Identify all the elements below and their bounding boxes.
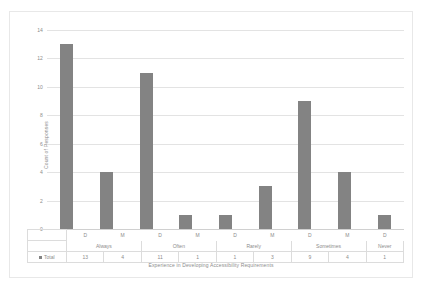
legend-total-label: Total [44,254,55,260]
bar [338,172,351,229]
bar-slot [285,30,325,229]
bar [219,215,232,229]
total-value-cell: 11 [141,252,178,263]
table-group-rowhead [28,241,67,252]
bar [259,186,272,229]
bar [60,44,73,229]
total-value-cell: 4 [329,252,366,263]
y-tick-label: 6 [40,141,43,147]
total-value-cell: 1 [179,252,216,263]
total-value-cell: 9 [291,252,328,263]
category-letter-cell: M [329,230,366,241]
total-value-cell: 13 [67,252,104,263]
bar-slot [364,30,404,229]
bar-slot [47,30,87,229]
group-label-cell: Often [141,241,216,252]
y-tick-label: 12 [37,55,43,61]
bar [100,172,113,229]
category-letter-cell: D [67,230,104,241]
bar [140,73,153,229]
bar-slot [206,30,246,229]
category-letter-cell: D [141,230,178,241]
table-corner-cell [28,230,67,241]
category-letter-cell: D [366,230,404,241]
category-letter-cell: M [179,230,216,241]
group-label-cell: Never [366,241,404,252]
y-tick-label: 4 [40,169,43,175]
y-tick-label: 14 [37,27,43,33]
bar-slot [126,30,166,229]
total-value-cell: 3 [254,252,291,263]
y-tick-label: 2 [40,198,43,204]
bar-slot [87,30,127,229]
legend-swatch-icon [39,256,42,259]
group-label-cell: Rarely [216,241,291,252]
bar [378,215,391,229]
y-tick-label: 10 [37,84,43,90]
category-letter-cell: D [291,230,328,241]
x-axis-title: Experience in Developing Accessibility R… [10,262,412,268]
total-value-cell: 1 [216,252,253,263]
group-label-cell: Always [67,241,142,252]
total-value-cell: 4 [104,252,141,263]
bar-slot [325,30,365,229]
category-letter-cell: M [254,230,291,241]
table-row-groups: AlwaysOftenRarelySometimesNever [28,241,404,252]
total-value-cell: 1 [366,252,404,263]
bar-slot [166,30,206,229]
bar-series-total [47,30,404,229]
bar-slot [245,30,285,229]
bar [298,101,311,229]
chart-container: Count of Responses 14121086420 DMDMDMDMD… [9,11,413,278]
plot-area: 14121086420 [47,30,404,229]
table-row-categories: DMDMDMDMD [28,230,404,241]
y-tick-label: 8 [40,112,43,118]
legend-total: Total [28,252,67,263]
group-label-cell: Sometimes [291,241,366,252]
data-table: DMDMDMDMD AlwaysOftenRarelySometimesNeve… [27,229,404,263]
bar [179,215,192,229]
table-row-total: Total13411113941 [28,252,404,263]
category-letter-cell: D [216,230,253,241]
category-letter-cell: M [104,230,141,241]
